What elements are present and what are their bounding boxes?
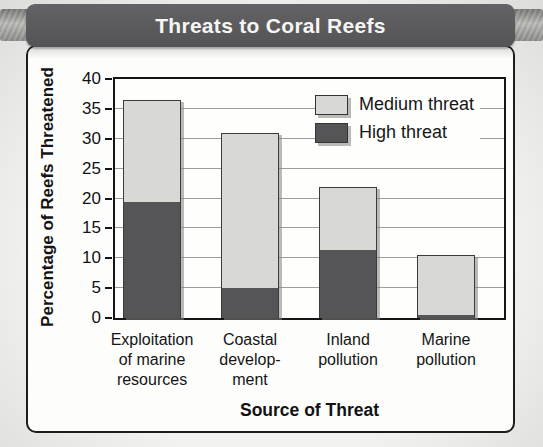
y-tick-35: 35 [28,99,112,119]
plot-area: Medium threat High threat [113,77,506,320]
y-tick-15: 15 [28,218,112,238]
y-tick-30: 30 [28,129,112,149]
y-tick-label: 0 [92,308,101,328]
y-tick-label: 30 [82,129,101,149]
y-tick-mark [105,108,112,110]
bar-segment-medium-threat [418,256,474,315]
y-tick-mark [105,138,112,140]
bar-exploitation [123,100,181,318]
legend-swatch-high-threat [315,123,348,143]
bar-segment-high-threat [418,315,474,318]
y-tick-0: 0 [28,308,112,328]
x-category-label: Inland pollution [301,330,395,370]
bar-segment-medium-threat [124,101,180,202]
chart-panel: Percentage of Reefs Threatened Medium th… [26,45,515,433]
y-tick-mark [105,257,112,259]
y-tick-25: 25 [28,159,112,179]
y-tick-40: 40 [28,69,112,89]
y-tick-label: 15 [82,218,101,238]
chart-title: Threats to Coral Reefs [155,14,386,38]
bar-segment-high-threat [222,288,278,318]
y-tick-label: 10 [82,248,101,268]
legend-label-high-threat: High threat [359,122,447,143]
bar-segment-medium-threat [222,134,278,289]
y-tick-label: 35 [82,99,101,119]
bar-segment-medium-threat [320,188,376,250]
y-tick-mark [105,287,112,289]
bar-marine [417,255,475,318]
y-tick-mark [105,78,112,80]
y-tick-10: 10 [28,248,112,268]
y-tick-label: 20 [82,189,101,209]
legend-label-medium-threat: Medium threat [359,94,474,115]
x-category-label: Marine pollution [399,330,493,370]
legend-item-medium-threat: Medium threat [315,92,480,117]
y-tick-mark [105,227,112,229]
x-axis-category-labels: Exploitation of marine resourcesCoastal … [113,330,506,394]
legend-swatch-medium-threat [315,95,348,115]
legend: Medium threat High threat [315,92,480,148]
y-tick-label: 5 [92,278,101,298]
x-category-label: Coastal develop- ment [203,330,297,390]
bar-coastal [221,133,279,318]
y-tick-label: 40 [82,69,101,89]
y-tick-mark [105,198,112,200]
bar-inland [319,187,377,318]
x-axis-title: Source of Threat [113,400,506,421]
bar-segment-high-threat [124,202,180,318]
chart-title-bar: Threats to Coral Reefs [26,4,515,47]
y-tick-label: 25 [82,159,101,179]
y-tick-5: 5 [28,278,112,298]
x-category-label: Exploitation of marine resources [105,330,199,390]
y-tick-20: 20 [28,189,112,209]
bar-segment-high-threat [320,250,376,318]
y-tick-mark [105,168,112,170]
legend-item-high-threat: High threat [315,120,480,145]
y-tick-mark [105,317,112,319]
